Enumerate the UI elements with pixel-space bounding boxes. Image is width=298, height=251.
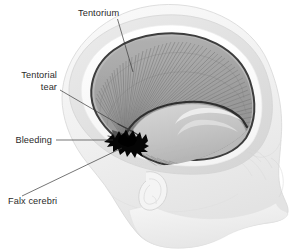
label-tentorial-tear-line2: tear <box>41 82 57 92</box>
label-tentorial-tear-line1: Tentorial <box>21 70 57 80</box>
label-tentorium: Tentorium <box>78 8 119 18</box>
label-falx-cerebri: Falx cerebri <box>8 196 57 206</box>
label-bleeding: Bleeding <box>15 135 52 145</box>
anatomy-figure: Tentorium Tentorial tear Bleeding Falx c… <box>0 0 298 251</box>
